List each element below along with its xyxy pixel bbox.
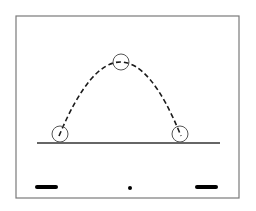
center-dot-marker: [128, 186, 132, 190]
trajectory-path: [59, 62, 181, 136]
diagram-frame: [16, 16, 239, 198]
bottom-markers: [37, 186, 216, 190]
landing-position-circle: [172, 126, 188, 142]
projectile-diagram: [0, 0, 256, 211]
position-circles: [52, 54, 188, 142]
